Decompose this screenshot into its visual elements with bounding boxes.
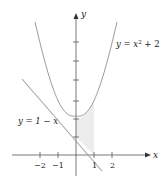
x-axis-arrow-icon	[145, 153, 151, 158]
tick-label-1: 1	[92, 161, 97, 170]
x-axis-label: x	[153, 150, 158, 160]
y-axis-arrow-icon	[74, 13, 79, 19]
line-label: y = 1 − x	[17, 116, 58, 126]
tick-label-neg2: −2	[34, 161, 46, 170]
tick-label-neg1: −1	[52, 161, 64, 170]
shaded-region	[76, 101, 94, 155]
parabola-label: y = x2 + 2	[115, 39, 160, 49]
y-axis-label: y	[80, 9, 87, 19]
chart: x y −2 −1 1 2 y = x2 + 2 y = 1 − x	[0, 0, 165, 181]
tick-label-2: 2	[110, 161, 115, 170]
